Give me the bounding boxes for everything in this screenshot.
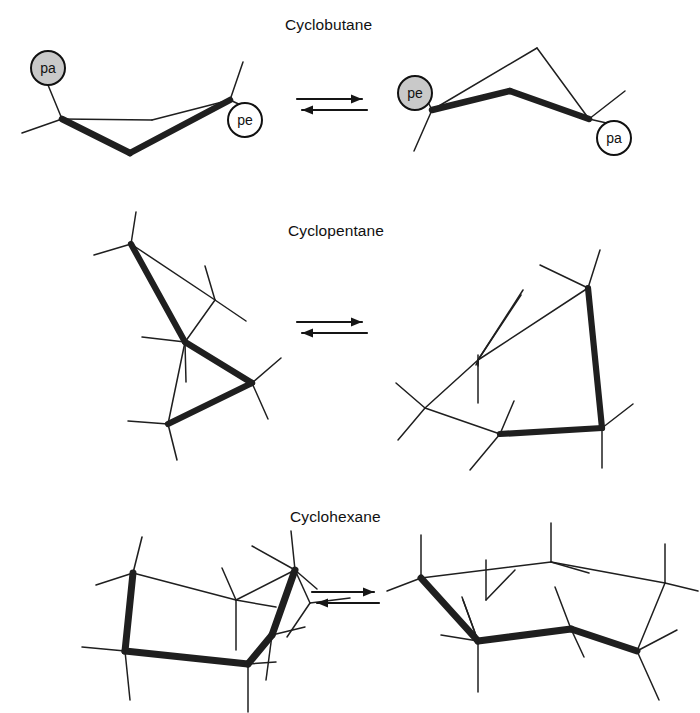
equilibrium-arrow-cyclohexane <box>312 588 379 608</box>
label-pe-left[interactable]: pe <box>228 103 262 137</box>
label-pa-left-text: pa <box>40 60 56 76</box>
cyclopentane-right-conformer <box>396 250 633 470</box>
label-pe-right-text: pe <box>407 85 423 101</box>
equilibrium-arrow-cyclobutane <box>297 95 367 115</box>
label-pe-right[interactable]: pe <box>398 76 432 110</box>
cyclohexane-left-conformer <box>82 531 350 712</box>
label-pa-right-text: pa <box>606 130 622 146</box>
label-pe-left-text: pe <box>237 112 253 128</box>
equilibrium-arrow-cyclopentane <box>297 318 367 338</box>
cyclobutane-right-conformer <box>414 48 625 151</box>
cyclopentane-left-conformer <box>94 212 281 460</box>
structures-canvas: pa pe pe pa <box>0 0 700 713</box>
label-pa-left[interactable]: pa <box>31 51 65 85</box>
diagram-page: Cyclobutane Cyclopentane Cyclohexane <box>0 0 700 713</box>
label-pa-right[interactable]: pa <box>597 121 631 155</box>
cyclohexane-right-conformer <box>387 523 698 700</box>
